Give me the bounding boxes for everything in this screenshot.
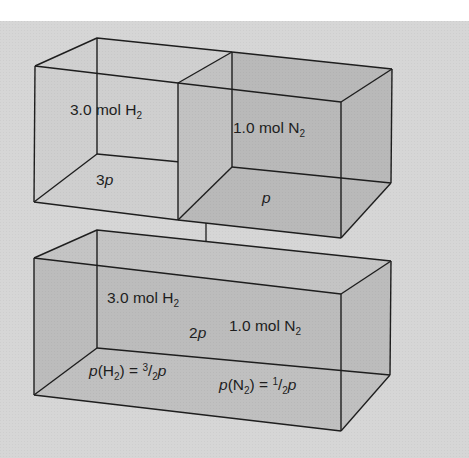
top-right-gas-label: 1.0 mol N2 [233,120,305,136]
top-left-pressure-label: 3p [96,172,113,188]
partial-pressure-h2-label: p(H2) = 3/2p [89,363,166,379]
bottom-gas2-label: 1.0 mol N2 [229,318,301,334]
bottom-total-pressure-label: 2p [189,325,206,341]
bottom-gas1-label: 3.0 mol H2 [107,290,179,306]
top-right-pressure-label: p [262,190,271,206]
top-left-gas-label: 3.0 mol H2 [70,102,142,118]
partial-pressure-n2-label: p(N2) = 1/2p [219,377,296,393]
diagram-stage: 3.0 mol H2 3p 1.0 mol N2 p 3.0 mol H2 1.… [0,0,469,458]
